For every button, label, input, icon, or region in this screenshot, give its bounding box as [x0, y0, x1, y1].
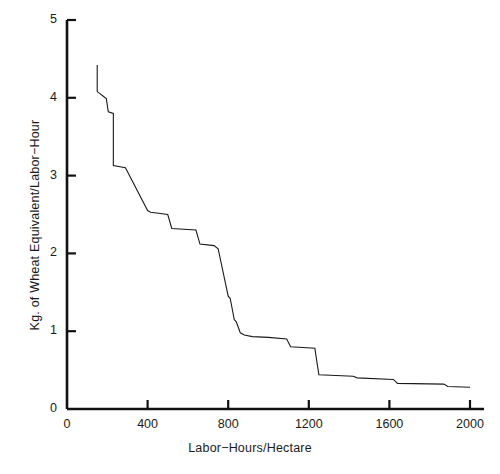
x-tick-label: 400 — [118, 417, 178, 431]
x-tick-label: 1600 — [359, 417, 419, 431]
step-chart-plot — [0, 0, 500, 474]
x-axis-title: Labor−Hours/Hectare — [0, 441, 500, 455]
y-tick-label: 5 — [27, 12, 57, 26]
x-tick-label: 800 — [198, 417, 258, 431]
x-tick-label: 1200 — [279, 417, 339, 431]
x-tick-label: 0 — [37, 417, 97, 431]
y-tick-label: 0 — [27, 401, 57, 415]
data-series-line — [97, 65, 470, 387]
x-axis-tick-marks — [148, 400, 470, 409]
chart-figure: 012345 0400800120016002000 Labor−Hours/H… — [0, 0, 500, 474]
x-tick-label: 2000 — [440, 417, 500, 431]
y-axis-title: Kg. of Wheat Equivalent/Labor−Hour — [28, 95, 42, 355]
y-axis-tick-marks — [67, 20, 76, 331]
